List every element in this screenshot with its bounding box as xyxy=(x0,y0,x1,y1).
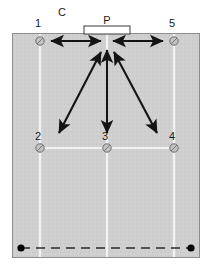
cone-marker-3 xyxy=(103,144,111,152)
diagram-canvas: C P 15234 xyxy=(0,0,211,264)
cone-label-2: 2 xyxy=(35,130,41,142)
cone-label-5: 5 xyxy=(169,17,175,29)
cone-label-3: 3 xyxy=(102,130,108,142)
cone-label-1: 1 xyxy=(35,17,41,29)
cone-marker-1 xyxy=(36,37,44,45)
diagram-title-label: C xyxy=(58,6,66,18)
baseline-dot-right xyxy=(187,244,194,251)
cone-label-4: 4 xyxy=(169,130,175,142)
goal-position-label: P xyxy=(103,14,110,26)
cone-marker-2 xyxy=(36,144,44,152)
goal-rect xyxy=(84,26,130,34)
cone-marker-5 xyxy=(170,37,178,45)
baseline-dot-left xyxy=(17,244,24,251)
cone-marker-4 xyxy=(170,144,178,152)
goal-bracket xyxy=(84,26,130,34)
